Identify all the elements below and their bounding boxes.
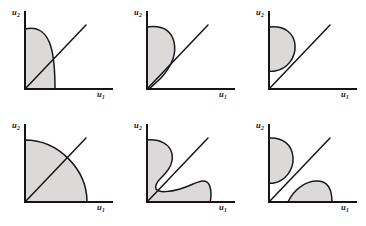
panel-d-x-axis-label: u1 bbox=[97, 203, 105, 212]
panel-e: u2 u1 bbox=[122, 113, 244, 226]
panel-e-x-axis-label: u1 bbox=[219, 203, 227, 212]
panel-f-x-axis-label: u1 bbox=[341, 203, 349, 212]
panel-d: u2 u1 bbox=[0, 113, 122, 226]
figure-grid: u2 u1 u2 u1 u2 u1 bbox=[0, 0, 366, 226]
panel-b-region bbox=[147, 27, 175, 89]
panel-f-region-lower bbox=[288, 181, 332, 202]
panel-a-y-axis-label: u2 bbox=[12, 8, 20, 17]
panel-c: u2 u1 bbox=[244, 0, 366, 113]
panel-f: u2 u1 bbox=[244, 113, 366, 226]
panel-b: u2 u1 bbox=[122, 0, 244, 113]
panel-a-x-axis-label: u1 bbox=[97, 90, 105, 99]
panel-a: u2 u1 bbox=[0, 0, 122, 113]
panel-b-y-axis-label: u2 bbox=[134, 8, 142, 17]
panel-e-y-axis-label: u2 bbox=[134, 121, 142, 130]
panel-f-y-axis-label: u2 bbox=[256, 121, 264, 130]
panel-a-region bbox=[25, 28, 55, 89]
panel-c-y-axis-label: u2 bbox=[256, 8, 264, 17]
panel-f-region-upper bbox=[269, 138, 293, 183]
panel-b-x-axis-label: u1 bbox=[219, 90, 227, 99]
panel-c-x-axis-label: u1 bbox=[341, 90, 349, 99]
panel-d-y-axis-label: u2 bbox=[12, 121, 20, 130]
